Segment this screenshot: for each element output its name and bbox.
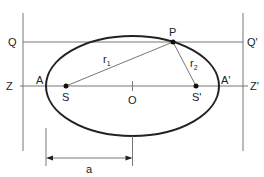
focus-s-prime-point: [194, 84, 199, 89]
label-q: Q: [8, 36, 17, 48]
label-a-vertex: A: [36, 74, 44, 86]
ellipse-diagram: Q Q' Z Z' A A' S S' O P r1 r2 a: [0, 0, 264, 177]
label-p: P: [169, 26, 176, 38]
point-p: [171, 40, 176, 45]
label-s: S: [62, 91, 69, 103]
dim-a-left-arrow-icon: [46, 156, 53, 161]
label-s-prime: S': [192, 91, 201, 103]
label-q-prime: Q': [247, 36, 258, 48]
label-a-dimension: a: [86, 163, 93, 175]
dim-a-right-arrow-icon: [126, 156, 133, 161]
label-r2: r2: [190, 57, 198, 71]
label-o: O: [128, 94, 137, 106]
r1-line: [66, 42, 173, 86]
label-z: Z: [6, 80, 13, 92]
label-z-prime: Z': [250, 80, 259, 92]
label-r1: r1: [103, 53, 111, 67]
label-a-prime-vertex: A': [221, 74, 230, 86]
focus-s-point: [64, 84, 69, 89]
